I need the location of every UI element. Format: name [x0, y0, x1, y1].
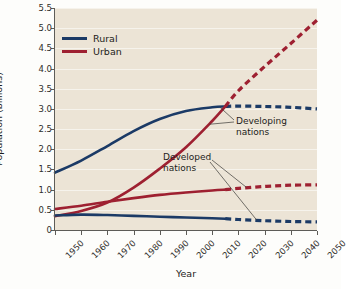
leader-line: [220, 107, 234, 120]
leader-line: [210, 122, 234, 124]
leader-line: [212, 160, 246, 187]
leader-line: [210, 162, 257, 220]
